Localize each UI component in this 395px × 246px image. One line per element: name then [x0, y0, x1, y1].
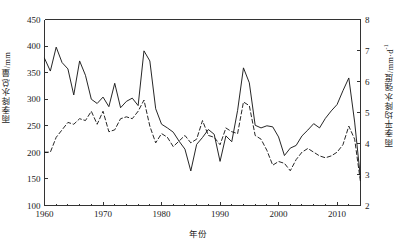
y-tick-label-right: 3: [365, 170, 370, 180]
tick-label-layer: 1001502002503003504004502345678196019701…: [27, 15, 370, 219]
x-tick-label: 1980: [153, 209, 172, 219]
x-tick-label: 2000: [270, 209, 289, 219]
y-tick-label-right: 7: [365, 46, 370, 56]
x-tick-label: 1990: [211, 209, 230, 219]
y-axis-right-title: 雨季平均降水强度/mm·d-1: [383, 44, 394, 147]
y-tick-label-right: 4: [365, 139, 370, 149]
chart-figure: 1001502002503003504004502345678196019701…: [0, 0, 395, 246]
y-axis-left-title: 雨季降水总量/mm: [3, 52, 12, 123]
y-axis-right-title-exponent: -1: [383, 44, 389, 49]
y-tick-label-left: 200: [27, 148, 41, 158]
y-tick-label-left: 300: [27, 94, 41, 104]
series-line-2: [45, 100, 361, 182]
y-tick-label-left: 450: [27, 15, 41, 25]
y-tick-label-right: 8: [365, 15, 370, 25]
y-tick-label-left: 150: [27, 174, 41, 184]
x-tick-label: 1970: [94, 209, 113, 219]
y-tick-label-right: 5: [365, 108, 370, 118]
y-tick-label-left: 250: [27, 121, 41, 131]
series-layer: [45, 47, 361, 182]
precipitation-line-chart: 1001502002503003504004502345678196019701…: [0, 0, 395, 246]
y-tick-label-left: 400: [27, 41, 41, 51]
x-axis-title: 年份: [0, 227, 395, 239]
x-tick-label: 1960: [36, 209, 55, 219]
y-tick-label-left: 350: [27, 68, 41, 78]
x-tick-label: 2010: [328, 209, 347, 219]
y-tick-label-right: 2: [365, 201, 370, 211]
y-tick-label-right: 6: [365, 77, 370, 87]
y-axis-right-title-text: 雨季平均降水强度/mm·d: [385, 49, 395, 146]
